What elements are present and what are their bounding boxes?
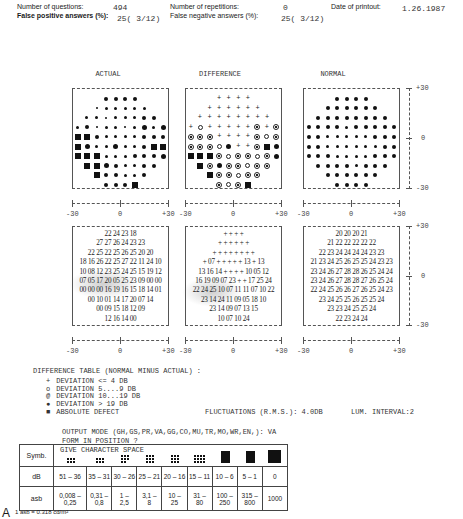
dot-icon	[354, 125, 358, 129]
dot-icon	[335, 164, 339, 168]
normal-symbol-grid	[304, 89, 399, 188]
symbol-cell	[304, 152, 314, 161]
dot-icon	[133, 164, 136, 167]
value-row: 23 24 25 25 26 25 25 24	[304, 296, 399, 304]
dot-icon	[354, 97, 358, 101]
dot-icon	[336, 135, 339, 138]
db-cell: 25 – 21	[137, 467, 162, 487]
plus-icon: +	[255, 114, 259, 121]
axis-label-pos: +30	[162, 347, 175, 355]
symbol-cell	[73, 132, 83, 141]
symbol-cell: +	[224, 104, 234, 113]
symbol-cell	[352, 94, 362, 103]
symbol-cell: +	[243, 104, 253, 113]
symbol-row	[186, 152, 281, 161]
dot-icon	[373, 173, 377, 177]
dot-pattern-icon	[67, 458, 75, 463]
normal-title: NORMAL	[285, 70, 381, 78]
plus-icon: +	[207, 105, 211, 112]
false-negative-label: False negative answers (%):	[170, 12, 258, 19]
symbol-cell	[159, 152, 169, 161]
symbol-cell	[149, 161, 159, 170]
axis-label-zero: 0	[118, 347, 122, 355]
symbol-cell	[149, 132, 159, 141]
symbol-cell	[352, 180, 362, 189]
symbol-row: Symb. GIVE CHARACTER SPACE	[20, 445, 288, 467]
symbol-cell	[140, 171, 150, 180]
symbol-cell	[101, 94, 111, 103]
symbol-cell	[352, 161, 362, 170]
dot-icon	[133, 145, 136, 148]
dot-icon	[104, 173, 108, 177]
symbol-cell	[102, 142, 112, 151]
symbol-cell	[361, 180, 371, 189]
value-row: 10 07 10 24	[186, 315, 281, 323]
value-row: 00 09 15 18 12 09	[73, 305, 168, 313]
dot-pattern-icon	[146, 455, 154, 463]
symbol-cell	[243, 152, 253, 161]
legend-title: DIFFERENCE TABLE (NORMAL MINUS ACTUAL) :	[33, 367, 201, 375]
difference-symbol-panel: +++++++++++++++++++++++++++++++	[185, 88, 282, 189]
symbol-cell	[215, 142, 225, 151]
false-positive-value: 25( 3/12)	[117, 14, 160, 23]
plus-icon: +	[217, 95, 221, 102]
plus-icon: +	[265, 114, 269, 121]
actual-symbol-panel	[72, 88, 169, 189]
date-label: Date of printout:	[331, 3, 381, 10]
dotted-circle-icon	[254, 163, 260, 169]
dot-icon	[355, 145, 358, 148]
symbol-cell	[234, 161, 244, 170]
symbol-cell: +	[234, 94, 244, 103]
dot-icon	[96, 126, 98, 128]
filled-square-icon	[197, 153, 203, 159]
symbol-cell: +	[234, 132, 244, 141]
dot-icon	[142, 154, 146, 158]
dot-icon	[326, 106, 330, 110]
symbol-cell: +	[243, 94, 253, 103]
symbol-row	[304, 123, 399, 132]
symbol-cell	[333, 123, 343, 132]
symbol-cell	[361, 142, 371, 151]
symbol-cell	[371, 142, 381, 151]
symbol-cell	[73, 152, 83, 161]
dot-icon	[364, 173, 368, 177]
open-circle-icon	[255, 154, 260, 159]
value-row: 22 23 24 24 24 24 23 23	[304, 249, 399, 257]
symbol-cell	[196, 123, 206, 132]
symbol-cell	[111, 171, 121, 180]
symbol-cell	[304, 123, 314, 132]
dotted-circle-icon	[197, 144, 203, 150]
dot-icon	[133, 154, 137, 158]
dot-icon	[124, 155, 127, 158]
dot-icon	[355, 155, 358, 158]
symbol-cell	[111, 104, 121, 113]
axis-label-neg: -30	[66, 347, 79, 355]
tick	[406, 88, 412, 89]
symbol-cell	[121, 123, 131, 132]
filled-square-icon	[94, 163, 100, 169]
dotted-circle-icon	[235, 182, 241, 188]
symbol-row	[304, 161, 399, 170]
dotted-circle-icon	[197, 134, 203, 140]
db-cell: 0	[262, 467, 287, 487]
dot-icon	[114, 116, 117, 119]
dotted-circle-icon	[207, 134, 213, 140]
symbol-cell	[102, 152, 112, 161]
value-row: + + + +	[186, 230, 281, 238]
dotted-circle-icon	[216, 153, 222, 159]
dot-icon	[142, 125, 147, 130]
dot-icon	[345, 106, 349, 110]
symbol-row: ++++++	[186, 104, 281, 113]
symbol-cell	[313, 113, 323, 122]
symbol-cell: +	[243, 113, 253, 122]
dotted-circle-icon	[207, 144, 213, 150]
dot-icon	[307, 125, 311, 129]
symbol-cell	[205, 171, 215, 180]
value-row: 22 25 22 25 26 25 20 20	[73, 249, 168, 257]
dotted-circle-icon	[245, 153, 251, 159]
db-cell: 15 – 11	[187, 467, 212, 487]
symbol-cell	[101, 171, 111, 180]
symbol-cell	[111, 161, 121, 170]
difference-values-grid: + + + ++ + + + + ++ + + + + + + ++ 07 + …	[186, 227, 281, 325]
symbol-row	[73, 180, 168, 189]
